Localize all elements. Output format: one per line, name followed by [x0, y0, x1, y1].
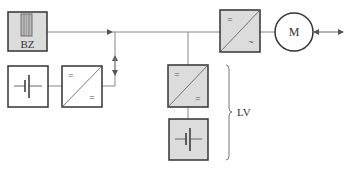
motor-label: M [289, 25, 300, 39]
converter-in-symbol: = [68, 70, 73, 80]
battery-converter-link [102, 32, 115, 86]
inverter-box: = ~ [220, 10, 260, 52]
motor: M [275, 13, 313, 51]
battery-lower-box [169, 119, 208, 160]
lv-brace: LV [226, 65, 251, 160]
fuel-cell-box: BZ [8, 12, 47, 51]
fuel-cell-label: BZ [20, 38, 34, 50]
converter-out-symbol: = [195, 93, 200, 103]
converter-out-symbol: = [89, 92, 94, 102]
converter-mid-box: = = [168, 65, 208, 107]
battery-left-box [8, 66, 48, 107]
lv-label: LV [237, 106, 251, 118]
inverter-out-symbol: ~ [248, 37, 253, 47]
converter-in-symbol: = [174, 69, 179, 79]
inverter-in-symbol: = [227, 14, 232, 24]
fuel-cell-icon [21, 14, 32, 36]
powertrain-diagram: BZ = = = = = [0, 0, 352, 169]
converter-left-box: = = [62, 66, 102, 107]
